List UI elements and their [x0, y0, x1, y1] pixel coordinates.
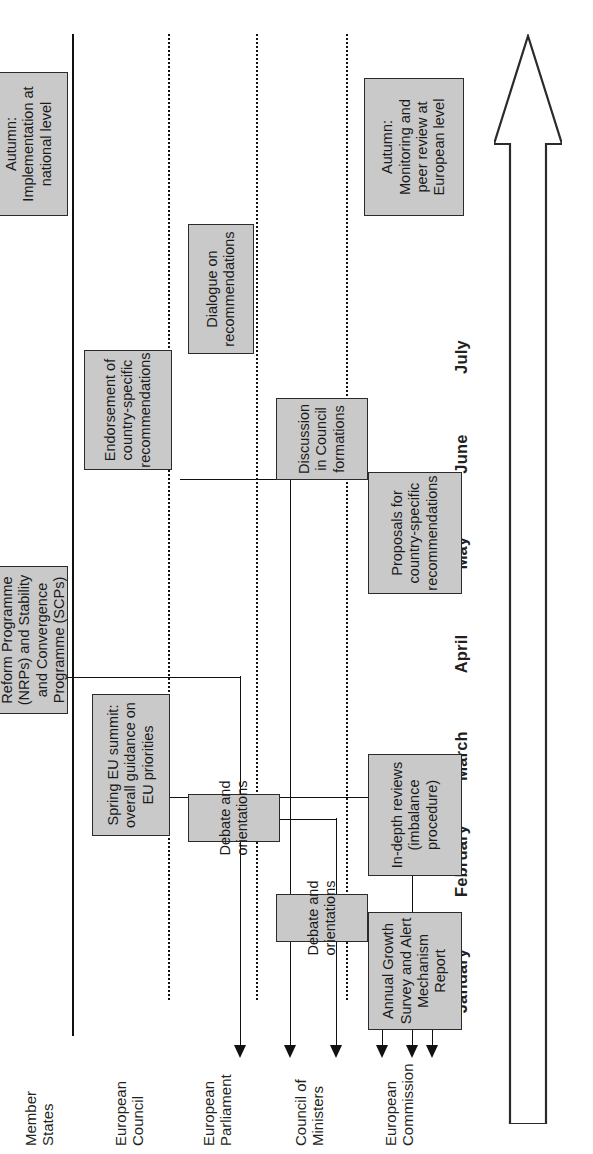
box-adoption-nrp-scp[interactable]: Adoption of National Reform Programme (N… — [0, 566, 68, 714]
lane-separator-council-parliament — [256, 34, 258, 1000]
flow-arrowhead-july — [284, 1045, 296, 1058]
box-discussion-in-council-formations[interactable]: Discussion in Council formations — [276, 398, 368, 480]
box-autumn-monitoring-peer-review[interactable]: Autumn: Monitoring and peer review at Eu… — [364, 78, 464, 216]
flow-arrowhead-march — [406, 1045, 418, 1058]
lane-separator-parliament-eucouncil — [168, 34, 170, 1000]
box-in-depth-reviews[interactable]: In-depth reviews (imbalance procedure) — [368, 754, 462, 876]
box-autumn-implementation-national[interactable]: Autumn: Implementation at national level — [0, 72, 68, 216]
month-label-april: April — [452, 606, 471, 702]
lane-label-european-parliament: European Parliament — [200, 1004, 235, 1146]
box-dialogue-on-recommendations[interactable]: Dialogue on recommendations — [188, 224, 254, 354]
flow-arrowhead-june — [376, 1045, 388, 1058]
box-parliament-debate-and-orientations[interactable]: Debate and orientations — [188, 794, 280, 842]
box-endorsement-country-specific-recommendations[interactable]: Endorsement of country-specific recommen… — [84, 350, 172, 470]
lane-label-council-of-ministers: Council of Ministers — [292, 1004, 327, 1146]
flow-line-july — [290, 478, 291, 1046]
month-label-july: July — [452, 312, 471, 402]
time-direction-arrow — [494, 34, 562, 1124]
lane-label-member-states: Member States — [22, 1004, 57, 1146]
lane-label-european-council: European Council — [112, 1004, 147, 1146]
box-proposals-country-specific-recommendations[interactable]: Proposals for country-specific recommend… — [368, 472, 462, 594]
box-spring-eu-summit[interactable]: Spring EU summit: overall guidance on EU… — [92, 694, 170, 836]
flow-line-april — [240, 676, 241, 1046]
flow-stem-endorsement — [180, 479, 290, 480]
diagram-canvas: January February March April May June Ju… — [0, 0, 593, 1154]
flow-stem-nrp-scp — [40, 677, 240, 678]
flow-arrowhead-february — [330, 1045, 342, 1058]
lane-separator-eucouncil-memberstates — [72, 34, 74, 1036]
rotated-diagram-frame: January February March April May June Ju… — [0, 0, 593, 1154]
lane-separator-commission-council — [346, 34, 348, 1000]
box-council-debate-and-orientations[interactable]: Debate and orientations — [276, 894, 368, 942]
flow-arrowhead-april — [234, 1045, 246, 1058]
box-annual-growth-survey[interactable]: Annual Growth Survey and Alert Mechanism… — [368, 912, 462, 1030]
flow-arrowhead-january — [426, 1045, 438, 1058]
